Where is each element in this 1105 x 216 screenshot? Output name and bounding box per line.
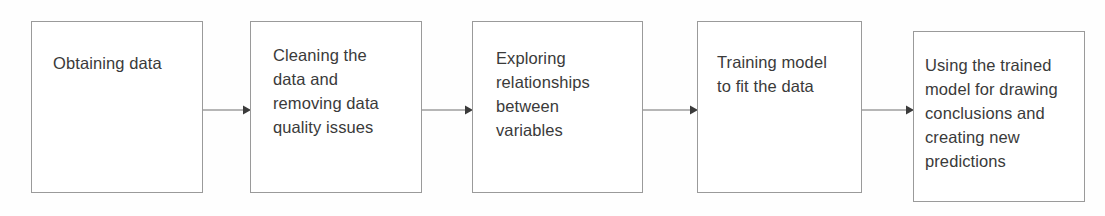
flowchart-node-label: Exploring relationships between variable… bbox=[496, 46, 641, 142]
flowchart-node-using-trained-model[interactable]: Using the trained model for drawing conc… bbox=[913, 31, 1085, 202]
arrow-right-icon bbox=[422, 104, 473, 116]
flowchart-node-exploring-relationships[interactable]: Exploring relationships between variable… bbox=[472, 21, 643, 193]
arrow-right-icon bbox=[643, 104, 698, 116]
flowchart-node-label: Cleaning the data and removing data qual… bbox=[273, 43, 421, 139]
arrow-right-icon bbox=[862, 104, 914, 116]
flowchart-arrow-4 bbox=[862, 104, 914, 116]
flowchart-node-label: Training model to fit the data bbox=[717, 50, 862, 98]
flowchart-arrow-2 bbox=[422, 104, 473, 116]
flowchart-node-label: Using the trained model for drawing conc… bbox=[925, 53, 1085, 173]
flowchart-node-label: Obtaining data bbox=[53, 51, 203, 75]
flowchart-arrow-1 bbox=[203, 104, 251, 116]
flowchart-node-cleaning-data[interactable]: Cleaning the data and removing data qual… bbox=[250, 21, 422, 193]
flowchart-node-training-model[interactable]: Training model to fit the data bbox=[697, 21, 862, 193]
flowchart-arrow-3 bbox=[643, 104, 698, 116]
flowchart-node-obtaining-data[interactable]: Obtaining data bbox=[31, 21, 203, 193]
arrow-right-icon bbox=[203, 104, 251, 116]
flowchart-canvas: Obtaining data Cleaning the data and rem… bbox=[0, 0, 1105, 216]
